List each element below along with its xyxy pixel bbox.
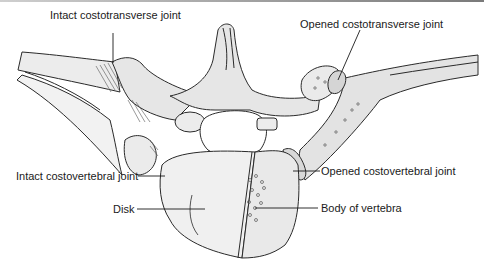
leader-opened-costotransverse bbox=[338, 30, 360, 80]
label-body-of-vertebra: Body of vertebra bbox=[321, 202, 402, 214]
disk bbox=[160, 151, 255, 258]
label-disk: Disk bbox=[113, 203, 134, 215]
spinous-process bbox=[170, 24, 320, 116]
label-opened-costotransverse-joint: Opened costotransverse joint bbox=[300, 18, 443, 30]
vertebral-foramen bbox=[200, 111, 266, 156]
label-intact-costovertebral-joint: Intact costovertebral joint bbox=[16, 170, 138, 182]
label-opened-costovertebral-joint: Opened costovertebral joint bbox=[321, 165, 456, 177]
left-transverse-process bbox=[112, 58, 200, 120]
label-intact-costotransverse-joint: Intact costotransverse joint bbox=[50, 9, 181, 21]
right-superior-facet bbox=[257, 118, 277, 130]
vertebra-rib-illustration bbox=[0, 0, 484, 269]
